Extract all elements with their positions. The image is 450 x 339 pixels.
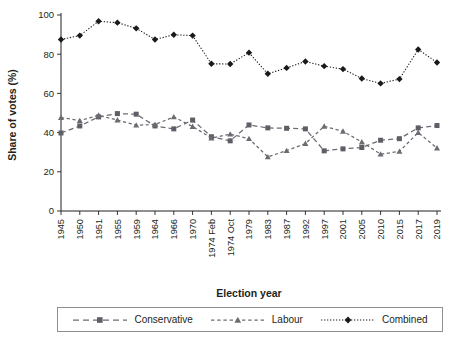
data-point [133, 122, 139, 127]
data-point [247, 122, 252, 127]
x-tick-label: 1974 Oct [226, 219, 236, 257]
data-point [171, 32, 177, 38]
y-tick-label: 100 [38, 9, 54, 20]
x-tick-label: 1955 [113, 219, 123, 239]
x-axis-title: Election year [216, 287, 281, 299]
y-tick-label: 80 [43, 49, 54, 60]
data-point [227, 61, 233, 67]
series-labour [58, 112, 440, 159]
y-tick-label: 60 [43, 88, 54, 99]
data-point [171, 114, 177, 119]
legend-label-conservative: Conservative [134, 314, 192, 325]
data-point [415, 46, 421, 52]
x-tick-label: 1970 [188, 219, 198, 239]
data-point [396, 76, 402, 82]
legend-swatch-labour [210, 314, 266, 326]
data-point [115, 111, 120, 116]
data-point [134, 112, 139, 117]
votes-share-line-chart: 020406080100 194519501951195519591964196… [0, 0, 450, 339]
legend-swatch-conservative [72, 314, 128, 326]
data-point [77, 32, 83, 38]
x-tick-label: 1945 [56, 219, 66, 239]
data-point [284, 126, 289, 131]
x-tick-label: 1983 [263, 219, 273, 239]
x-tick-label: 1987 [282, 219, 292, 239]
data-point [340, 66, 346, 72]
data-point [434, 59, 440, 65]
data-point [378, 138, 383, 143]
data-point [397, 136, 402, 141]
data-point [321, 123, 327, 128]
x-tick-label: 1950 [75, 219, 85, 239]
data-point [152, 36, 158, 42]
series-layer [58, 18, 440, 159]
x-tick-label: 1997 [320, 219, 330, 239]
data-point [114, 117, 120, 122]
data-point [359, 145, 364, 150]
data-point [228, 138, 233, 143]
series-combined [58, 18, 440, 87]
y-axis: 020406080100 [38, 9, 61, 216]
data-point [377, 80, 383, 86]
x-tick-label: 1966 [169, 219, 179, 239]
data-point [396, 148, 402, 153]
data-point [302, 58, 308, 64]
data-point [359, 75, 365, 81]
chart-legend: Conservative Labour Combined [57, 307, 443, 332]
data-point [77, 123, 82, 128]
data-point [341, 146, 346, 151]
chart-container: 020406080100 194519501951195519591964196… [0, 0, 450, 339]
legend-label-labour: Labour [272, 314, 303, 325]
data-point [190, 118, 195, 123]
data-point [359, 139, 365, 144]
x-tick-label: 1959 [132, 219, 142, 239]
data-point [208, 61, 214, 67]
x-axis: 194519501951195519591964196619701974 Feb… [56, 211, 442, 258]
x-tick-label: 2010 [376, 219, 386, 239]
data-point [303, 126, 308, 131]
data-point [133, 25, 139, 31]
data-point [77, 118, 83, 123]
data-point [415, 130, 421, 135]
legend-item-conservative[interactable]: Conservative [72, 314, 192, 326]
series-conservative [59, 111, 440, 153]
legend-item-combined[interactable]: Combined [320, 314, 428, 326]
data-point [114, 19, 120, 25]
data-point [58, 115, 64, 120]
data-point [171, 126, 176, 131]
data-point [322, 148, 327, 153]
data-point [435, 123, 440, 128]
data-point [340, 128, 346, 133]
x-tick-label: 1979 [244, 219, 254, 239]
x-tick-label: 2015 [395, 219, 405, 239]
legend-item-labour[interactable]: Labour [210, 314, 303, 326]
data-point [283, 65, 289, 71]
y-axis-title: Share of votes (%) [6, 69, 18, 161]
data-point [59, 130, 64, 135]
y-tick-label: 0 [49, 205, 54, 216]
data-point [58, 36, 64, 42]
x-tick-label: 1964 [150, 219, 160, 239]
data-point [227, 131, 233, 136]
data-point [265, 125, 270, 130]
x-tick-label: 2019 [432, 219, 442, 239]
y-tick-label: 40 [43, 127, 54, 138]
x-tick-label: 2017 [414, 219, 424, 239]
data-point [189, 32, 195, 38]
legend-label-combined: Combined [382, 314, 428, 325]
x-tick-label: 1992 [301, 219, 311, 239]
x-tick-label: 2005 [357, 219, 367, 239]
data-point [190, 124, 196, 129]
x-tick-label: 1974 Feb [207, 219, 217, 258]
x-tick-label: 2001 [338, 219, 348, 239]
y-tick-label: 20 [43, 166, 54, 177]
data-point [246, 136, 252, 141]
data-point [321, 63, 327, 69]
legend-swatch-combined [320, 314, 376, 326]
x-tick-label: 1951 [94, 219, 104, 239]
